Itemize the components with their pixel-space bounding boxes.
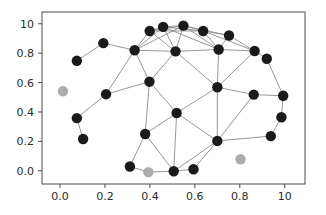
- graph-node: [158, 22, 168, 32]
- graph-node: [144, 26, 154, 36]
- graph-node: [140, 129, 150, 139]
- x-tick-label: 0.4: [141, 190, 159, 203]
- y-tick-label: 0.4: [17, 106, 35, 119]
- graph-edge: [149, 82, 176, 113]
- plot-border: [42, 12, 305, 184]
- graph-edge: [145, 134, 174, 171]
- x-tick-label: 10: [278, 190, 292, 203]
- graph-edge: [135, 50, 150, 81]
- graph-node: [171, 108, 181, 118]
- x-tick-label: 0.0: [51, 190, 69, 203]
- graph-edge: [217, 87, 253, 94]
- graph-node: [266, 131, 276, 141]
- graph-edge: [217, 136, 270, 141]
- node-layer: [58, 20, 289, 177]
- graph-edge: [267, 59, 283, 96]
- x-tick-label: 0.2: [96, 190, 114, 203]
- graph-edge: [177, 113, 218, 141]
- graph-node: [198, 26, 208, 36]
- graph-node: [262, 54, 272, 64]
- y-tick-label: 0.6: [17, 77, 35, 90]
- graph-node-isolated: [58, 86, 68, 96]
- graph-edge: [176, 51, 218, 87]
- graph-edge: [145, 113, 176, 134]
- graph-node: [98, 38, 108, 48]
- graph-node: [249, 89, 259, 99]
- graph-edge: [217, 51, 254, 87]
- graph-edge: [217, 49, 218, 87]
- y-tick-label: 0.8: [17, 47, 35, 60]
- graph-node: [178, 20, 188, 30]
- graph-edge: [130, 134, 145, 166]
- graph-edge: [219, 49, 255, 50]
- network-graph-plot: 0.00.20.40.60.810 0.00.20.40.60.810: [0, 0, 326, 215]
- graph-edge: [77, 94, 106, 118]
- graph-node: [212, 82, 222, 92]
- y-tick-label: 0.2: [17, 135, 35, 148]
- y-axis-ticks: 0.00.20.40.60.810: [17, 18, 43, 178]
- graph-edge: [174, 113, 177, 171]
- graph-node-isolated: [235, 154, 245, 164]
- graph-edge: [149, 51, 175, 81]
- graph-node: [224, 30, 234, 40]
- graph-edge: [217, 95, 253, 141]
- axis-frame: [42, 12, 305, 184]
- graph-node: [144, 76, 154, 86]
- y-tick-label: 0.0: [17, 165, 35, 178]
- graph-node: [213, 44, 223, 54]
- x-tick-label: 0.8: [231, 190, 249, 203]
- graph-node-isolated: [143, 167, 153, 177]
- graph-node: [125, 161, 135, 171]
- graph-node: [101, 89, 111, 99]
- graph-node: [170, 46, 180, 56]
- graph-node: [278, 91, 288, 101]
- x-tick-label: 0.6: [186, 190, 204, 203]
- graph-node: [188, 164, 198, 174]
- graph-node: [72, 113, 82, 123]
- graph-node: [78, 134, 88, 144]
- graph-canvas: 0.00.20.40.60.810 0.00.20.40.60.810: [0, 0, 326, 215]
- graph-node: [249, 46, 259, 56]
- graph-node: [212, 136, 222, 146]
- graph-edge: [177, 87, 218, 113]
- graph-edge: [176, 49, 219, 51]
- graph-edge: [145, 82, 149, 134]
- graph-edge: [135, 50, 176, 51]
- graph-node: [169, 166, 179, 176]
- graph-node: [276, 112, 286, 122]
- graph-node: [72, 56, 82, 66]
- y-tick-label: 10: [20, 18, 34, 31]
- graph-node: [129, 45, 139, 55]
- x-axis-ticks: 0.00.20.40.60.810: [51, 184, 292, 203]
